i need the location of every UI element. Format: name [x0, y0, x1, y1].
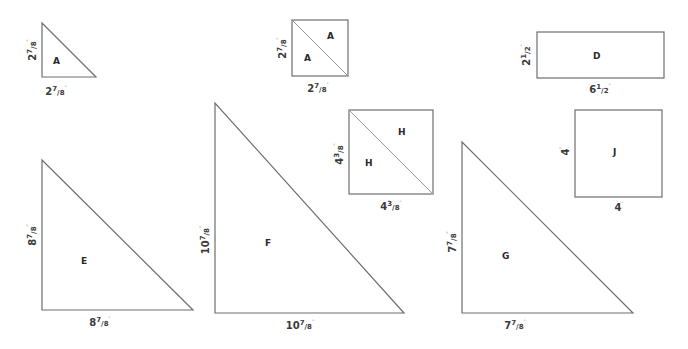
piece-e: E 87/8″ 87/8″: [25, 160, 193, 328]
piece-label-j: J: [612, 147, 617, 157]
dimension-width: 4″: [614, 200, 624, 213]
dimension-width: 27/8″: [307, 81, 329, 94]
piece-h: H H 43/8″ 43/8″: [332, 110, 433, 212]
dimension-width: 61/2″: [589, 82, 611, 95]
dimension-height: 21/2″: [519, 43, 532, 65]
piece-label-a-lower: A: [304, 53, 311, 63]
dimension-height: 4″: [558, 146, 571, 156]
dimension-width: 77/8″: [504, 318, 526, 331]
dimension-height: 27/8″: [275, 36, 288, 58]
piece-label-e: E: [81, 256, 88, 266]
piece-label-d: D: [593, 51, 601, 61]
piece-label-a: A: [53, 56, 60, 66]
dimension-width: 43/8″: [380, 199, 402, 212]
piece-a-square: A A 27/8″ 27/8″: [275, 20, 348, 94]
piece-label-g: G: [502, 251, 510, 261]
dimension-height: 107/8″: [198, 225, 211, 254]
piece-label-h-lower: H: [365, 158, 373, 168]
dimension-height: 27/8″: [25, 38, 38, 60]
dimension-height: 43/8″: [332, 142, 345, 164]
dimension-height: 87/8″: [25, 223, 38, 245]
dimension-width: 87/8″: [89, 315, 111, 328]
triangle-e-outline: [42, 160, 193, 310]
square-j-outline: [575, 110, 662, 197]
piece-label-a-upper: A: [327, 31, 334, 41]
cutting-diagram: A 27/8″ 27/8″ A A 27/8″ 27/8″ D 21/2″ 61…: [0, 0, 688, 349]
piece-label-h-upper: H: [398, 127, 406, 137]
triangle-a-outline: [42, 23, 96, 77]
piece-label-f: F: [265, 238, 272, 248]
piece-j: J 4″ 4″: [558, 110, 662, 213]
piece-a-triangle: A 27/8″ 27/8″: [25, 23, 96, 97]
dimension-height: 77/8″: [445, 230, 458, 252]
piece-d: D 21/2″ 61/2″: [519, 32, 664, 95]
dimension-width: 107/8″: [286, 318, 315, 331]
dimension-width: 27/8″: [45, 84, 67, 97]
